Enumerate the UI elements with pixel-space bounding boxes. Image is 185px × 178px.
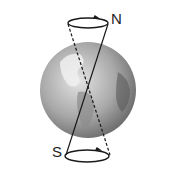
globe bbox=[40, 42, 136, 138]
north-precession-circle bbox=[68, 16, 108, 28]
south-precession-circle bbox=[65, 148, 109, 162]
north-label: N bbox=[111, 10, 122, 27]
precession-diagram bbox=[0, 0, 185, 178]
south-label: S bbox=[52, 143, 62, 160]
